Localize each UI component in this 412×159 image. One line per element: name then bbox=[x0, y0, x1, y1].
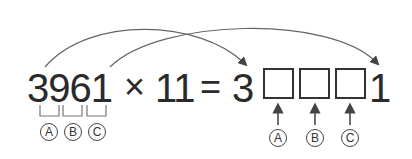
blank-box-a[interactable] bbox=[263, 68, 294, 99]
times-sign: × bbox=[124, 67, 145, 107]
result-last-digit: 1 bbox=[369, 68, 390, 108]
label-right-c: C bbox=[341, 129, 359, 147]
label-left-c: C bbox=[88, 123, 106, 141]
blank-box-c[interactable] bbox=[335, 68, 366, 99]
arc-first-digit bbox=[45, 29, 244, 67]
arc-last-digit bbox=[110, 28, 376, 67]
label-right-b: B bbox=[306, 129, 324, 147]
label-right-a: A bbox=[269, 129, 287, 147]
equals-sign: = bbox=[200, 67, 221, 107]
multiplicand: 3961 bbox=[27, 68, 112, 108]
blank-box-b[interactable] bbox=[299, 68, 330, 99]
label-left-b: B bbox=[64, 123, 82, 141]
multiplier: 11 bbox=[155, 68, 195, 108]
label-left-a: A bbox=[40, 123, 58, 141]
result-first-digit: 3 bbox=[232, 68, 253, 108]
